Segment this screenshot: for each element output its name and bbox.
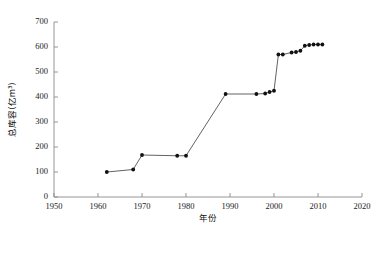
- data-point: [294, 50, 298, 54]
- data-point: [281, 53, 285, 57]
- x-tick-label: 1970: [134, 201, 151, 211]
- y-tick-label: 600: [35, 41, 48, 51]
- data-point: [316, 43, 320, 47]
- x-axis-ticks: 19501960197019801990200020102020: [46, 193, 371, 211]
- data-point: [268, 90, 272, 94]
- x-tick-label: 1960: [90, 201, 107, 211]
- data-point: [321, 43, 325, 47]
- y-axis-title: 总库容(亿m³): [7, 82, 17, 136]
- x-tick-label: 1950: [46, 201, 63, 211]
- data-point: [303, 44, 307, 48]
- data-series-line: [107, 45, 323, 173]
- y-tick-label: 500: [35, 66, 48, 76]
- data-point: [263, 92, 267, 96]
- data-point: [255, 92, 259, 96]
- data-point: [175, 154, 179, 158]
- x-tick-label: 2010: [310, 201, 327, 211]
- x-tick-label: 1980: [178, 201, 195, 211]
- data-point: [140, 153, 144, 157]
- y-tick-label: 700: [35, 16, 48, 26]
- chart-container: 0100200300400500600700 19501960197019801…: [0, 0, 380, 259]
- data-point: [290, 51, 294, 55]
- y-tick-label: 400: [35, 91, 48, 101]
- data-point: [272, 89, 276, 93]
- x-tick-label: 2020: [354, 201, 371, 211]
- data-point: [307, 43, 311, 47]
- line-chart: 0100200300400500600700 19501960197019801…: [0, 0, 380, 259]
- y-tick-label: 300: [35, 116, 48, 126]
- data-point: [277, 53, 281, 57]
- data-point-markers: [105, 43, 324, 174]
- x-axis-title: 年份: [199, 213, 217, 223]
- x-tick-label: 2000: [266, 201, 283, 211]
- data-point: [312, 43, 316, 47]
- y-tick-label: 200: [35, 141, 48, 151]
- data-point: [131, 168, 135, 172]
- y-axis-ticks: 0100200300400500600700: [35, 16, 58, 201]
- data-point: [105, 170, 109, 174]
- data-point: [299, 49, 303, 53]
- x-tick-label: 1990: [222, 201, 239, 211]
- y-tick-label: 0: [44, 191, 48, 201]
- data-point: [184, 154, 188, 158]
- y-tick-label: 100: [35, 166, 48, 176]
- data-point: [224, 92, 228, 96]
